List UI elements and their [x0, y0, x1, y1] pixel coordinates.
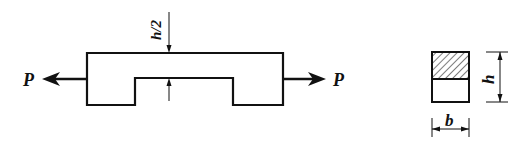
force-label-right: P [332, 70, 345, 90]
height-label: h [479, 75, 498, 84]
notch-depth-label: h/2 [148, 19, 164, 40]
bar-outline [87, 53, 283, 105]
force-label-left: P [22, 70, 35, 90]
notch-depth-arrow-top [167, 12, 172, 53]
cross-section [432, 52, 469, 102]
force-arrow-right [283, 72, 326, 86]
width-label: b [445, 111, 454, 130]
hatched-area [432, 52, 469, 79]
notched-bar-diagram: P P h/2 h b [0, 0, 516, 150]
notch-depth-arrow-bottom [167, 78, 172, 101]
force-arrow-left [42, 72, 87, 86]
